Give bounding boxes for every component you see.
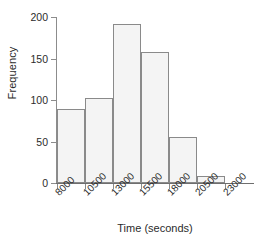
histogram-bar: [113, 24, 141, 183]
y-axis-tick-labels: 050100150200: [22, 0, 48, 245]
y-axis-tick-label: 150: [22, 54, 48, 64]
y-axis-tick-mark: [51, 100, 56, 101]
y-axis-tick-label: 50: [22, 137, 48, 147]
y-axis-tick-mark: [51, 183, 56, 184]
histogram-bar: [141, 52, 169, 183]
histogram-chart: Frequency 050100150200 Time (seconds) 80…: [0, 0, 269, 245]
histogram-bar: [57, 109, 85, 183]
y-axis-tick-mark: [51, 142, 56, 143]
y-axis-tick-label: 100: [22, 95, 48, 105]
x-axis-title: Time (seconds): [57, 222, 253, 234]
y-axis-tick-label: 200: [22, 12, 48, 22]
y-axis-title: Frequency: [5, 28, 19, 118]
y-axis-tick-mark: [51, 59, 56, 60]
y-axis-tick-mark: [51, 17, 56, 18]
plot-area: [57, 17, 253, 183]
y-axis-tick-label: 0: [22, 178, 48, 188]
